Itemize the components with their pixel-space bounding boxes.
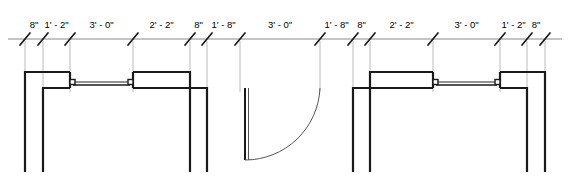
right-window-jamb-marker <box>495 80 500 85</box>
floor-plan-svg: 8"1' - 2"3' - 0"2' - 2"8"1' - 8"3' - 0"1… <box>0 0 570 184</box>
dimension-label: 1' - 8" <box>324 19 348 30</box>
dimension-labels-group: 8"1' - 2"3' - 0"2' - 2"8"1' - 8"3' - 0"1… <box>30 19 541 30</box>
dimension-label: 8" <box>194 19 203 30</box>
dimension-label: 1' - 2" <box>44 19 68 30</box>
dimension-label: 2' - 2" <box>389 19 413 30</box>
wall-line <box>43 88 207 172</box>
dimension-label: 2' - 2" <box>149 19 173 30</box>
dimension-label: 3' - 0" <box>268 19 292 30</box>
wall-line <box>353 88 527 172</box>
dimension-label: 1' - 2" <box>501 19 525 30</box>
dimension-label: 8" <box>30 19 39 30</box>
door-swing-arc <box>245 88 320 160</box>
left-window-jamb-marker <box>128 80 133 85</box>
dimension-label: 8" <box>532 19 541 30</box>
wall-geometry-group <box>25 72 545 172</box>
left-window-jamb-marker <box>70 80 75 85</box>
dimension-label: 1' - 8" <box>211 19 235 30</box>
dimension-label: 3' - 0" <box>454 19 478 30</box>
right-window-jamb-marker <box>433 80 438 85</box>
opening-geometry-group <box>70 80 500 161</box>
dimension-label: 8" <box>357 19 366 30</box>
architectural-drawing-canvas: 8"1' - 2"3' - 0"2' - 2"8"1' - 8"3' - 0"1… <box>0 0 570 184</box>
dimension-label: 3' - 0" <box>89 19 113 30</box>
